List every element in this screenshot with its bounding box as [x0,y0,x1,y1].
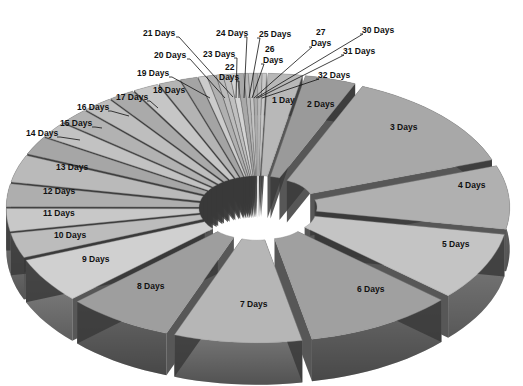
slice-label: 25 Days [259,29,291,39]
slice-label: 11 Days [43,208,75,218]
slice-label: 16 Days [77,102,109,112]
slice-label: 7 Days [240,299,268,309]
slice-label: Days [263,55,284,65]
slice-label: 31 Days [343,46,375,56]
slice-label: 14 Days [26,128,58,138]
slice-label: 17 Days [116,92,148,102]
slice-label: 24 Days [216,28,248,38]
slice-label: 3 Days [390,122,418,132]
slice-label: 13 Days [56,162,88,172]
slice-label: 1 Day [272,95,295,105]
slice-label: 18 Days [153,85,185,95]
slice-label: 8 Days [137,281,165,291]
slice-label: 20 Days [154,50,186,60]
slice-label: 12 Days [43,186,75,196]
slice-label: 6 Days [357,284,385,294]
slice-label: 19 Days [137,68,169,78]
slice-label: 15 Days [60,118,92,128]
slice-label: 21 Days [143,28,175,38]
slice-label: 30 Days [362,25,394,35]
slice-label: 22 [225,62,235,72]
slice-label: 9 Days [82,254,110,264]
slice-label: 5 Days [442,239,470,249]
pie-chart-3d: 1 Day2 Days3 Days4 Days5 Days6 Days7 Day… [0,0,523,386]
slice-label: 23 Days [203,49,235,59]
slice-label: Days [219,72,240,82]
slice-label: 10 Days [54,230,86,240]
slice-label: 4 Days [458,180,486,190]
slice-label: 27 [316,27,326,37]
slice-label: 26 [265,44,275,54]
slice-label: 2 Days [307,99,335,109]
slice-label: 32 Days [318,70,350,80]
slice-label: Days [311,38,332,48]
